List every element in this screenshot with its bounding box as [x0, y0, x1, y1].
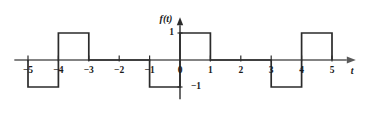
x-tick-label--2: −2	[114, 66, 124, 76]
x-axis-label: t	[351, 66, 354, 76]
x-tick-label--1: −1	[145, 66, 155, 76]
x-tick-label--5: −5	[23, 66, 33, 76]
axis-group	[14, 17, 355, 99]
plot-canvas	[0, 0, 370, 115]
x-tick-label--4: −4	[53, 66, 63, 76]
y-tick-label-neg1: −1	[191, 82, 201, 92]
y-axis-label: f(t)	[160, 14, 173, 24]
x-tick-label-1: 1	[208, 66, 213, 76]
y-tick-label-pos1: 1	[169, 28, 174, 38]
x-tick-label-5: 5	[330, 66, 335, 76]
x-tick-label-0: 0	[178, 66, 183, 76]
x-axis-arrowhead	[347, 57, 356, 64]
x-tick-label--3: −3	[84, 66, 94, 76]
square-wave-figure: f(t) t −5−4−3−2−1012345 1−1	[0, 0, 370, 115]
y-axis-arrowhead	[177, 17, 183, 25]
x-tick-label-2: 2	[238, 66, 243, 76]
x-tick-label-4: 4	[299, 66, 304, 76]
x-tick-label-3: 3	[269, 66, 274, 76]
